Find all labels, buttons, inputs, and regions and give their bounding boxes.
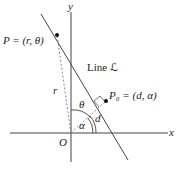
alpha-label: α	[79, 119, 85, 131]
point-P-dot	[55, 33, 59, 37]
polar-line-diagram: y x O Line ℒ P = (r, θ) P₀ = (d, α) r d …	[0, 0, 177, 169]
segment-d	[71, 101, 106, 133]
x-axis-label: x	[168, 126, 174, 138]
point-P0-dot	[104, 99, 108, 103]
y-axis-label: y	[67, 0, 73, 12]
d-label: d	[95, 112, 101, 124]
line-L-label: Line ℒ	[87, 61, 118, 73]
theta-arc	[71, 110, 91, 118]
point-P0-label: P₀ = (d, α)	[108, 89, 157, 102]
r-label: r	[53, 84, 58, 96]
segment-r	[57, 35, 71, 133]
theta-label: θ	[79, 98, 85, 110]
point-P-label: P = (r, θ)	[2, 34, 44, 47]
origin-label: O	[59, 136, 67, 148]
alpha-arc-inner	[88, 118, 93, 133]
